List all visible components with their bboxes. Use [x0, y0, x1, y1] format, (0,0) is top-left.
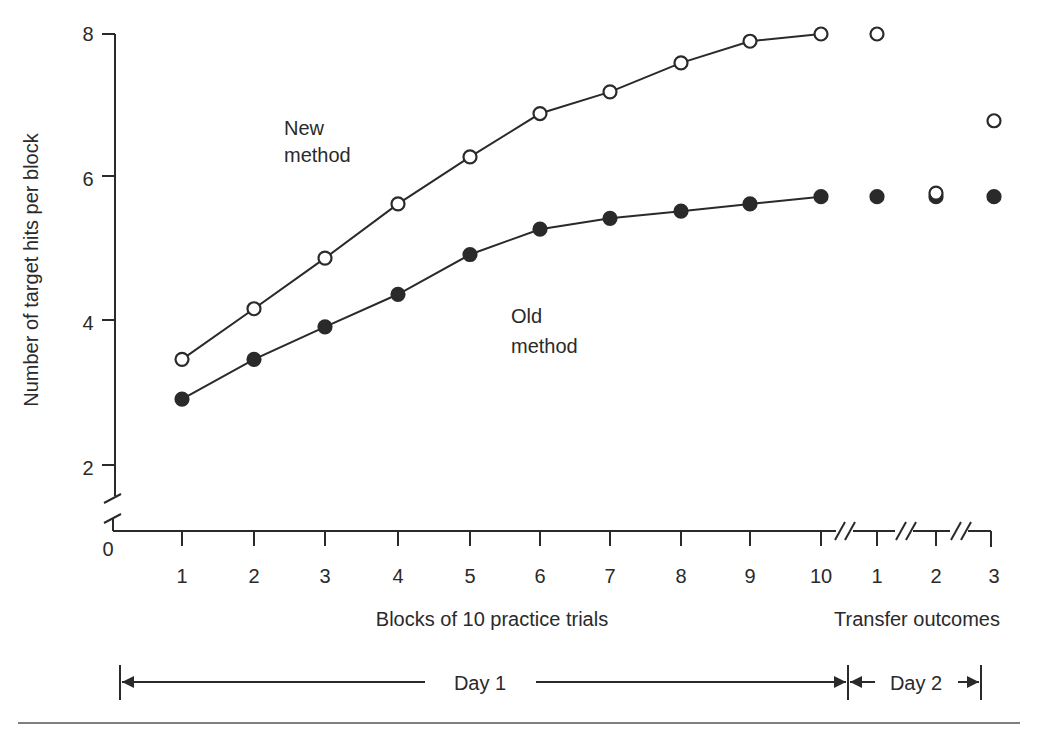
x-tick-label: 10 [810, 565, 832, 587]
new-method-point [871, 28, 884, 41]
new-method-point [392, 197, 405, 210]
old-method-point [604, 212, 617, 225]
x-axis-transfer-label: Transfer outcomes [834, 608, 1000, 630]
x-ticks: 12345678910123 [176, 531, 999, 587]
x-tick-label: 1 [176, 565, 187, 587]
old-method-point [988, 190, 1001, 203]
y-tick-labels: 2468 [82, 23, 93, 479]
x-tick-label: 8 [675, 565, 686, 587]
y-origin-label: 0 [102, 538, 113, 560]
old-method-point [744, 197, 757, 210]
x-tick-label: 7 [604, 565, 615, 587]
new-method-line [182, 34, 821, 359]
x-tick-transfer-label: 3 [988, 565, 999, 587]
old-method-point [815, 190, 828, 203]
new-method-point [464, 150, 477, 163]
old-method-point [464, 248, 477, 261]
new-method-point [815, 28, 828, 41]
y-axis-label: Number of target hits per block [20, 132, 42, 406]
old-method-label-line1: Old [511, 305, 542, 327]
new-method-point [319, 252, 332, 265]
y-tick-label: 6 [82, 168, 93, 190]
x-tick-label: 5 [464, 565, 475, 587]
old-method-point [392, 288, 405, 301]
x-tick-label: 9 [744, 565, 755, 587]
old-method-point [319, 320, 332, 333]
x-tick-transfer-label: 2 [930, 565, 941, 587]
series-layer [176, 28, 1001, 406]
old-method-point [534, 223, 547, 236]
x-tick-label: 3 [319, 565, 330, 587]
x-tick-label: 2 [248, 565, 259, 587]
x-tick-label: 6 [534, 565, 545, 587]
new-method-point [534, 107, 547, 120]
line-chart: 2468 0 Number of target hits per block 1… [0, 0, 1037, 736]
old-method-label-line2: method [511, 335, 578, 357]
old-method-point [176, 393, 189, 406]
x-axis-label: Blocks of 10 practice trials [376, 608, 608, 630]
new-method-point [248, 302, 261, 315]
new-method-point [604, 85, 617, 98]
day-span-brackets [120, 665, 981, 700]
new-method-label-line2: method [284, 144, 351, 166]
new-method-point [176, 353, 189, 366]
old-method-point [248, 353, 261, 366]
old-method-point [871, 190, 884, 203]
new-method-point [675, 56, 688, 69]
y-tick-label: 2 [82, 457, 93, 479]
day-1-label: Day 1 [454, 672, 506, 694]
old-method-line [182, 197, 821, 399]
day-2-label: Day 2 [890, 672, 942, 694]
y-tick-label: 8 [82, 23, 93, 45]
new-method-point [988, 114, 1001, 127]
new-method-point [744, 35, 757, 48]
new-method-point [930, 187, 943, 200]
old-method-point [675, 205, 688, 218]
x-tick-label: 4 [392, 565, 403, 587]
y-tick-label: 4 [82, 312, 93, 334]
x-axis [113, 522, 991, 547]
y-axis [102, 34, 121, 531]
new-method-label-line1: New [284, 117, 325, 139]
x-tick-transfer-label: 1 [871, 565, 882, 587]
